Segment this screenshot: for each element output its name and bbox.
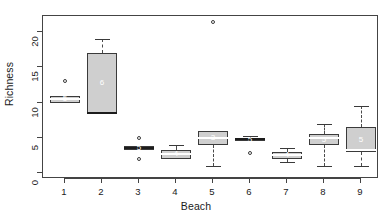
x-tick-label-5: 5 [202,186,222,197]
outlier-point [211,20,215,24]
x-tick-2 [101,178,102,183]
lower-whisker-cap [206,166,221,167]
median-line-1 [50,98,80,100]
box-9 [346,127,376,152]
upper-whisker-cap [354,106,369,107]
y-tick-label-10: 10 [29,101,40,123]
lower-whisker [361,152,362,166]
outlier-point [248,151,252,155]
plot-panel: 565435455 [42,15,378,178]
upper-whisker-cap [280,148,295,149]
lower-whisker-cap [317,166,332,167]
x-tick-label-8: 8 [313,186,333,197]
y-tick-label-5: 5 [29,136,40,158]
upper-whisker-cap [95,39,110,40]
upper-whisker-cap [317,124,332,125]
upper-whisker-cap [169,145,184,146]
x-tick-label-9: 9 [350,186,370,197]
x-tick-4 [175,178,176,183]
y-tick-label-15: 15 [29,66,40,88]
x-tick-7 [286,178,287,183]
outlier-point [137,136,141,140]
median-line-2 [87,112,117,114]
lower-whisker [213,145,214,166]
median-line-7 [272,154,302,156]
median-line-8 [309,137,339,139]
box-2 [87,53,117,113]
x-tick-6 [249,178,250,183]
median-line-4 [161,153,191,155]
upper-whisker [102,39,103,53]
upper-whisker [361,106,362,127]
lower-whisker-cap [280,162,295,163]
x-tick-label-7: 7 [276,186,296,197]
outlier-point [63,79,67,83]
x-tick-8 [323,178,324,183]
upper-whisker [324,124,325,135]
x-tick-3 [138,178,139,183]
lower-whisker-cap [354,166,369,167]
x-tick-1 [64,178,65,183]
median-line-9 [346,149,376,151]
x-tick-label-3: 3 [128,186,148,197]
x-tick-9 [360,178,361,183]
outlier-point [137,157,141,161]
x-tick-5 [212,178,213,183]
x-tick-label-6: 6 [239,186,259,197]
median-line-3 [124,147,154,149]
lower-whisker [324,145,325,166]
median-line-6 [235,138,265,140]
x-axis: 123456789 [0,178,392,208]
x-tick-label-4: 4 [165,186,185,197]
x-tick-label-1: 1 [54,186,74,197]
plot-area: 565435455 [43,16,377,177]
median-line-5 [198,137,228,139]
y-tick-label-20: 20 [29,31,40,53]
x-tick-label-2: 2 [91,186,111,197]
boxplot-figure: Richness Beach 05101520 565435455 123456… [0,0,392,222]
